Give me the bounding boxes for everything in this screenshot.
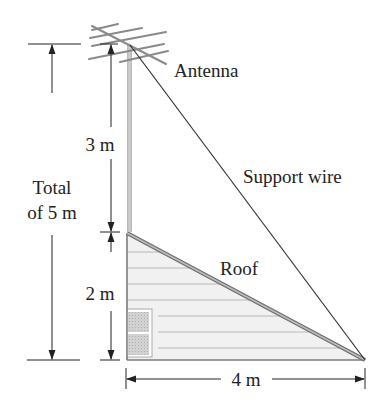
lower-height-label: 2 m (85, 283, 114, 304)
antenna-label: Antenna (174, 60, 239, 81)
base-width-label: 4 m (231, 369, 260, 390)
upper-height-label: 3 m (85, 134, 114, 155)
support-wire-label: Support wire (243, 166, 342, 187)
lower-height-dimension (100, 311, 120, 360)
total-label-line2: of 5 m (27, 202, 77, 223)
total-label-line1: Total (33, 177, 72, 198)
antenna-diagram: Total of 5 m 3 m 2 m 4 m Antenna Support… (0, 0, 386, 409)
roof-label: Roof (220, 258, 259, 279)
house (127, 233, 365, 360)
antenna-pole (128, 45, 131, 232)
window (127, 309, 152, 357)
